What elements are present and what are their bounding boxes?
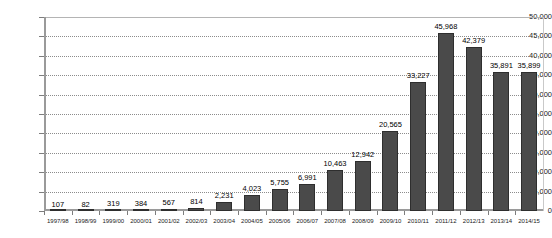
x-tick-label: 2005/06 — [269, 218, 291, 225]
x-tick-mark — [349, 211, 350, 215]
bar[interactable] — [272, 189, 288, 211]
bar-slot: 107 — [44, 17, 72, 211]
bar-slot: 12,942 — [349, 17, 377, 211]
x-tick-mark — [238, 211, 239, 215]
x-tick-label: 2013/14 — [491, 218, 513, 225]
bar[interactable] — [466, 47, 482, 211]
x-tick-label: 2008/09 — [352, 218, 374, 225]
bar[interactable] — [382, 131, 398, 211]
bar-value-label: 814 — [190, 198, 203, 206]
bar-slot: 4,023 — [238, 17, 266, 211]
bar-value-label: 2,231 — [215, 192, 234, 200]
bar-slot: 82 — [72, 17, 100, 211]
bar[interactable] — [216, 202, 232, 211]
bar-slot: 42,379 — [460, 17, 488, 211]
x-tick-mark — [210, 211, 211, 215]
bar-value-label: 567 — [162, 199, 175, 207]
x-tick-label: 1998/99 — [75, 218, 97, 225]
x-tick-mark — [460, 211, 461, 215]
x-tick-slot: 2000/01 — [127, 213, 155, 235]
x-tick-mark — [377, 211, 378, 215]
bar-slot: 10,463 — [321, 17, 349, 211]
bar-slot: 20,565 — [377, 17, 405, 211]
x-tick-mark — [266, 211, 267, 215]
bar-slot: 45,968 — [432, 17, 460, 211]
x-tick-mark — [321, 211, 322, 215]
bar-value-label: 12,942 — [351, 151, 374, 159]
x-tick-mark — [488, 211, 489, 215]
x-tick-slot: 2013/14 — [488, 213, 516, 235]
bar[interactable] — [299, 184, 315, 211]
bar-value-label: 33,227 — [407, 72, 430, 80]
x-tick-label: 2014/15 — [518, 218, 540, 225]
x-tick-label: 2004/05 — [241, 218, 263, 225]
x-tick-slot: 2002/03 — [183, 213, 211, 235]
bar-value-label: 35,891 — [490, 62, 513, 70]
bar-value-label: 10,463 — [324, 160, 347, 168]
x-tick-label: 2010/11 — [408, 218, 429, 225]
bar-value-label: 82 — [81, 201, 89, 209]
plot-right-edge — [543, 17, 544, 211]
x-tick-slot: 2008/09 — [349, 213, 377, 235]
x-tick-label: 2009/10 — [380, 218, 402, 225]
x-axis: 1997/981998/991999/002000/012001/022002/… — [44, 213, 543, 235]
bar-chart: 05,00010,00015,00020,00025,00030,00035,0… — [0, 0, 552, 238]
bar-slot: 35,899 — [515, 17, 543, 211]
bar[interactable] — [438, 33, 454, 211]
x-tick-slot: 2003/04 — [210, 213, 238, 235]
bar[interactable] — [355, 161, 371, 211]
bar-value-label: 20,565 — [379, 121, 402, 129]
bar[interactable] — [50, 209, 66, 211]
x-tick-label: 1997/98 — [47, 218, 69, 225]
bar-value-label: 5,755 — [270, 179, 289, 187]
bar-slot: 6,991 — [293, 17, 321, 211]
bar-value-label: 45,968 — [434, 23, 457, 31]
x-tick-label: 2006/07 — [296, 218, 318, 225]
x-tick-mark — [293, 211, 294, 215]
bar-value-label: 107 — [52, 201, 65, 209]
x-tick-label: 1999/00 — [102, 218, 124, 225]
x-tick-slot: 1997/98 — [44, 213, 72, 235]
bar[interactable] — [133, 209, 149, 211]
x-tick-slot: 2005/06 — [266, 213, 294, 235]
bar[interactable] — [493, 72, 509, 211]
bar-value-label: 4,023 — [243, 185, 262, 193]
x-tick-slot: 2010/11 — [404, 213, 432, 235]
x-tick-mark — [72, 211, 73, 215]
x-tick-label: 2001/02 — [158, 218, 180, 225]
bar[interactable] — [105, 209, 121, 211]
x-tick-slot: 1998/99 — [72, 213, 100, 235]
bar-slot: 2,231 — [210, 17, 238, 211]
x-tick-label: 2000/01 — [130, 218, 152, 225]
bar[interactable] — [78, 209, 94, 211]
x-tick-label: 2007/08 — [324, 218, 346, 225]
x-tick-slot: 2006/07 — [293, 213, 321, 235]
bar-value-label: 35,899 — [518, 62, 541, 70]
x-tick-slot: 2001/02 — [155, 213, 183, 235]
bar-slot: 384 — [127, 17, 155, 211]
bar[interactable] — [521, 72, 537, 211]
x-tick-label: 2003/04 — [213, 218, 235, 225]
x-tick-label: 2002/03 — [186, 218, 208, 225]
bar-value-label: 319 — [107, 200, 120, 208]
x-tick-mark — [515, 211, 516, 215]
x-tick-label: 2011/12 — [435, 218, 456, 225]
bar[interactable] — [244, 195, 260, 211]
bar[interactable] — [161, 209, 177, 211]
x-tick-mark — [155, 211, 156, 215]
bar[interactable] — [188, 208, 204, 211]
bar-slot: 567 — [155, 17, 183, 211]
x-tick-slot: 2011/12 — [432, 213, 460, 235]
bar-slot: 319 — [99, 17, 127, 211]
x-tick-label: 2012/13 — [463, 218, 485, 225]
x-tick-mark — [432, 211, 433, 215]
x-tick-slot: 2009/10 — [377, 213, 405, 235]
bar[interactable] — [410, 82, 426, 211]
bar-slot: 814 — [183, 17, 211, 211]
x-tick-mark — [404, 211, 405, 215]
x-tick-slot: 2012/13 — [460, 213, 488, 235]
x-tick-slot: 1999/00 — [99, 213, 127, 235]
bar-slot: 35,891 — [488, 17, 516, 211]
bar[interactable] — [327, 170, 343, 211]
x-tick-mark — [99, 211, 100, 215]
